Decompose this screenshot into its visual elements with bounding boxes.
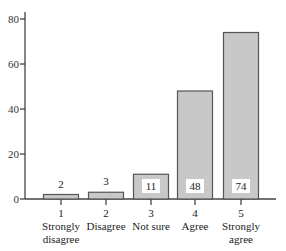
value-label: 3: [103, 175, 109, 187]
category-label: Disagree: [86, 220, 125, 232]
value-label: 48: [190, 180, 202, 192]
bar-chart: 02040608021Stronglydisagree32Disagree113…: [0, 0, 286, 251]
category-label: agree: [229, 233, 253, 245]
category-label: Not sure: [132, 220, 170, 232]
y-tick-label: 80: [8, 13, 20, 25]
y-tick-label: 0: [14, 193, 20, 205]
y-tick-label: 40: [8, 103, 20, 115]
category-code: 3: [148, 207, 154, 219]
category-code: 4: [192, 207, 198, 219]
value-label: 74: [236, 180, 248, 192]
bar: [44, 195, 79, 200]
category-code: 5: [238, 207, 244, 219]
category-label: Strongly: [42, 220, 80, 232]
bar: [224, 33, 259, 200]
category-code: 1: [58, 207, 64, 219]
y-tick-label: 60: [8, 58, 20, 70]
category-label: Strongly: [222, 220, 260, 232]
y-tick-label: 20: [8, 148, 20, 160]
chart-canvas: 02040608021Stronglydisagree32Disagree113…: [0, 0, 286, 251]
value-label: 2: [58, 178, 64, 190]
category-label: Agree: [182, 220, 209, 232]
value-label: 11: [146, 180, 157, 192]
bar: [89, 192, 124, 199]
category-label: disagree: [43, 233, 80, 245]
category-code: 2: [103, 207, 109, 219]
